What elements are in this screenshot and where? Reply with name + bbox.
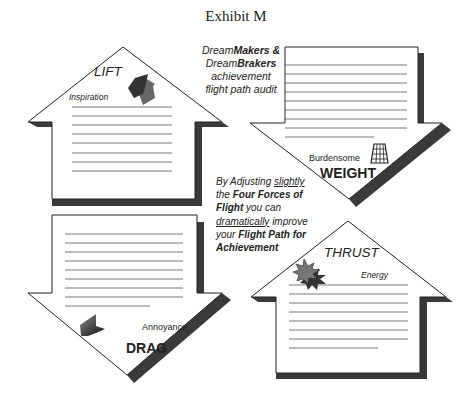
adjust-bold: Achievement — [216, 242, 278, 253]
adjust-text: you can — [243, 202, 281, 213]
adjust-line-5: your Flight Path for — [216, 228, 326, 241]
adjust-line-6: Achievement — [216, 241, 326, 254]
thrust-sublabel: Energy — [361, 270, 388, 280]
adjust-caption: By Adjusting slightly the Four Forces of… — [216, 175, 326, 254]
audit-line-3: achievement — [187, 70, 295, 83]
adjust-text: By Adjusting — [216, 176, 274, 187]
drag-label: DRAG — [126, 340, 167, 356]
audit-line-2-prefix: Dream — [206, 57, 238, 69]
audit-caption: DreamMakers & DreamBrakers achievement f… — [187, 44, 295, 96]
adjust-line-2: the Four Forces of — [216, 188, 326, 201]
adjust-underline: slightly — [274, 176, 305, 187]
audit-line-4: flight path audit — [187, 83, 295, 96]
weight-sublabel: Burdensome — [309, 153, 360, 163]
adjust-text: your — [216, 229, 238, 240]
lift-label: LIFT — [94, 64, 122, 79]
page-title: Exhibit M — [0, 8, 472, 25]
audit-line-1-prefix: Dream — [202, 44, 234, 56]
adjust-bold: Flight Path for — [238, 229, 306, 240]
thrust-label: THRUST — [324, 245, 379, 260]
adjust-bold: Four Forces of — [233, 189, 303, 200]
drag-sublabel: Annoyance — [142, 322, 187, 332]
adjust-bold: Flight — [216, 202, 243, 213]
adjust-text: improve — [269, 216, 307, 227]
drag-arrow — [28, 215, 231, 383]
audit-line-1: DreamMakers & — [187, 44, 295, 57]
adjust-underline: dramatically — [216, 216, 269, 227]
adjust-line-4: dramatically improve — [216, 215, 326, 228]
lift-sublabel: Inspiration — [69, 92, 108, 102]
audit-line-2-bold: Brakers — [237, 57, 276, 69]
audit-line-2: DreamBrakers — [187, 57, 295, 70]
drag-arrow-shape — [28, 215, 222, 375]
adjust-line-3: Flight you can — [216, 201, 326, 214]
adjust-line-1: By Adjusting slightly — [216, 175, 326, 188]
audit-line-1-bold: Makers & — [233, 44, 280, 56]
weight-grid-icon — [371, 144, 388, 163]
weight-label: WEIGHT — [320, 165, 376, 181]
adjust-text: the — [216, 189, 233, 200]
